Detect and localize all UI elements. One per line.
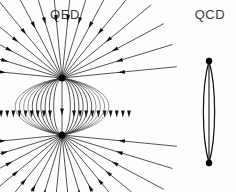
qed-arrowhead xyxy=(60,109,64,116)
qed-arrowhead xyxy=(0,139,6,143)
qed-radial-line xyxy=(0,135,62,189)
qed-arrowhead xyxy=(112,162,119,167)
qed-arrowhead xyxy=(103,111,107,118)
qcd-quark-upper xyxy=(206,58,212,64)
qed-radial-line xyxy=(0,24,62,78)
qed-radial-line xyxy=(62,0,95,78)
qed-dipole-loop xyxy=(41,78,62,135)
qed-axis-line xyxy=(60,78,64,135)
qed-charge-upper xyxy=(58,74,65,81)
qed-arrowhead xyxy=(118,70,125,74)
qed-arrowhead xyxy=(54,15,58,22)
qed-dipole-loop xyxy=(62,78,109,135)
qed-arrowhead xyxy=(118,139,125,143)
qed-arrowhead xyxy=(5,162,12,167)
qed-dipole-loop xyxy=(62,78,83,135)
qed-arrowhead xyxy=(54,191,58,192)
qed-arrowhead xyxy=(0,70,6,74)
qed-arrowhead xyxy=(112,47,119,52)
qcd-quark-lower xyxy=(206,160,212,166)
qed-arrowhead xyxy=(0,111,3,118)
qcd-flux-tube xyxy=(203,58,214,166)
qed-arrowhead xyxy=(1,58,8,62)
qed-field-diagram xyxy=(0,0,236,192)
qed-radial-line xyxy=(62,135,151,192)
qed-dipole-loop xyxy=(15,78,62,135)
qed-radial-line xyxy=(29,0,62,78)
qed-radial-line xyxy=(0,0,62,78)
qed-arrowhead xyxy=(121,111,125,118)
qed-qcd-figure: QED QCD xyxy=(0,0,236,192)
qed-arrowhead xyxy=(31,185,36,192)
qed-arrowhead xyxy=(89,185,94,192)
qed-radial-line xyxy=(51,135,62,192)
qed-arrowhead xyxy=(89,21,94,28)
qed-arrowhead xyxy=(127,111,131,118)
qed-radial-lines-lower xyxy=(0,135,176,192)
qed-arrowhead xyxy=(66,15,70,22)
qed-arrowhead xyxy=(116,151,123,155)
qed-arrowhead xyxy=(42,17,46,24)
qed-dipole-loop xyxy=(54,78,62,135)
qed-arrowhead xyxy=(116,58,123,62)
qed-arrowhead xyxy=(31,21,36,28)
qed-charge-lower xyxy=(58,131,65,138)
qed-arrowhead xyxy=(78,189,82,192)
qed-arrowhead xyxy=(109,111,113,118)
qed-radial-line xyxy=(62,135,73,192)
qed-arrowhead xyxy=(115,111,119,118)
qed-dipole-loop xyxy=(62,78,70,135)
qed-dipole-loops xyxy=(0,78,131,135)
qed-arrowhead xyxy=(5,111,9,118)
qed-arrowhead xyxy=(66,191,70,192)
qed-arrowhead xyxy=(11,111,15,118)
qed-arrowhead xyxy=(78,17,82,24)
qed-arrowhead xyxy=(1,151,8,155)
qed-radial-line xyxy=(62,0,135,78)
qed-arrowhead xyxy=(18,111,22,118)
qed-arrowhead xyxy=(5,47,12,52)
qed-arrowhead xyxy=(42,189,46,192)
qed-radial-lines-upper xyxy=(0,0,176,78)
